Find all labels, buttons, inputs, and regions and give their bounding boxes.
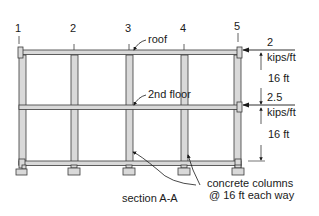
columns-label-line1: concrete columns bbox=[207, 177, 294, 189]
dim-upper-story: 16 ft bbox=[268, 72, 289, 84]
section-label: section A-A bbox=[122, 192, 178, 204]
roof-label: roof bbox=[148, 33, 168, 45]
floor-load-unit: kips/ft bbox=[267, 106, 296, 118]
grid-label-2: 2 bbox=[70, 22, 76, 34]
footings bbox=[16, 165, 244, 175]
roof-leader-arrow bbox=[134, 40, 146, 50]
dim-lower-story: 16 ft bbox=[268, 128, 289, 140]
grid-label-3: 3 bbox=[125, 22, 131, 34]
grid-label-1: 1 bbox=[15, 22, 21, 34]
roof-load-value: 2 bbox=[267, 36, 273, 48]
second-floor-beam bbox=[19, 105, 241, 110]
roof-load-unit: kips/ft bbox=[267, 51, 296, 63]
roof-beam bbox=[19, 50, 241, 55]
second-floor-leader-arrow bbox=[134, 95, 146, 105]
columns-label-line2: @ 16 ft each way bbox=[209, 189, 295, 201]
second-floor-label: 2nd floor bbox=[148, 88, 191, 100]
grid-label-4: 4 bbox=[180, 22, 186, 34]
frame-diagram: 1 2 3 4 5 roof 2nd floor section A-A con… bbox=[0, 0, 319, 216]
grid-label-5: 5 bbox=[234, 20, 240, 32]
columns bbox=[19, 55, 241, 165]
grid-ticks bbox=[19, 33, 238, 50]
floor-load-value: 2.5 bbox=[267, 91, 282, 103]
